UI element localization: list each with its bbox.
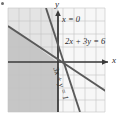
line-label-2x-3y-6: 2x + 3y = 6	[65, 36, 105, 46]
axis-label-x: x	[112, 55, 116, 65]
axis-label-y: y	[55, 0, 59, 9]
graph-figure: y x x = 0 2x + 3y = 6 3x + y = 1	[0, 0, 123, 122]
line-label-x-equals-0: x = 0	[62, 14, 80, 24]
